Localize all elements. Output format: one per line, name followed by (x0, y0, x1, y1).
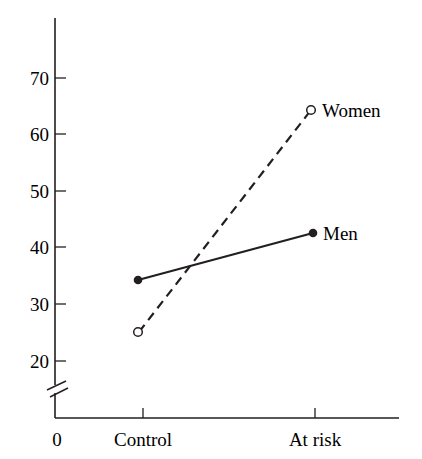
series-label-men: Men (323, 223, 358, 244)
x-category-control: Control (114, 429, 172, 450)
x-origin-label: 0 (52, 429, 62, 450)
y-tick-label-50: 50 (30, 181, 49, 202)
marker-men-atrisk (309, 229, 318, 238)
y-tick-label-20: 20 (30, 351, 49, 372)
y-tick-label-40: 40 (30, 237, 49, 258)
y-ticks (55, 78, 66, 361)
series-line-women (139, 110, 311, 332)
marker-women-atrisk (307, 106, 316, 115)
series-label-women: Women (322, 100, 381, 121)
x-category-atrisk: At risk (289, 429, 342, 450)
y-tick-label-70: 70 (30, 68, 49, 89)
marker-men-control (134, 276, 143, 285)
y-tick-label-60: 60 (30, 124, 49, 145)
marker-women-control (134, 328, 143, 337)
y-tick-label-30: 30 (30, 294, 49, 315)
axis-break-icon (47, 381, 68, 397)
series-line-men (138, 233, 313, 280)
line-chart: 70 60 50 40 30 20 0 Control At risk Wome… (0, 0, 422, 459)
